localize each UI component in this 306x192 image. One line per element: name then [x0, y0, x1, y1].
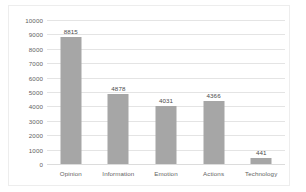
- bar-slot: 4366: [190, 20, 238, 164]
- gridline: [47, 164, 285, 165]
- bar-value-label: 8815: [64, 28, 78, 35]
- y-axis-tick-label: 4000: [29, 103, 43, 110]
- y-axis-tick-label: 5000: [29, 89, 43, 96]
- plot-area: 0100020003000400050006000700080009000100…: [47, 20, 285, 164]
- x-axis-category-label: Technology: [245, 170, 277, 177]
- y-axis-tick-label: 8000: [29, 45, 43, 52]
- bar-slot: 441: [237, 20, 285, 164]
- bar-value-label: 4878: [111, 85, 125, 92]
- bar-series: 8815487840314366441: [47, 20, 285, 164]
- chart-frame: 0100020003000400050006000700080009000100…: [8, 5, 290, 186]
- y-axis-tick-label: 9000: [29, 31, 43, 38]
- bar[interactable]: [203, 101, 224, 164]
- y-axis-tick-label: 6000: [29, 74, 43, 81]
- y-axis-tick-label: 7000: [29, 60, 43, 67]
- x-axis-category-label: Opinion: [60, 170, 82, 177]
- y-axis-tick-label: 10000: [25, 17, 43, 24]
- y-axis-tick-label: 0: [39, 161, 43, 168]
- y-axis-tick-label: 3000: [29, 117, 43, 124]
- x-axis-category-label: Actions: [203, 170, 224, 177]
- x-axis-category-label: Information: [102, 170, 134, 177]
- bar[interactable]: [251, 158, 272, 164]
- bar-value-label: 441: [256, 149, 267, 156]
- x-axis-category-label: Emotion: [154, 170, 177, 177]
- bar[interactable]: [155, 106, 176, 164]
- y-axis-tick-label: 2000: [29, 132, 43, 139]
- x-axis-category-labels: OpinionInformationEmotionActionsTechnolo…: [47, 167, 285, 185]
- bar-slot: 4031: [142, 20, 190, 164]
- bar[interactable]: [108, 94, 129, 164]
- bar-value-label: 4031: [159, 97, 173, 104]
- y-axis-tick-label: 1000: [29, 146, 43, 153]
- bar-slot: 8815: [47, 20, 95, 164]
- bar[interactable]: [60, 37, 81, 164]
- bar-slot: 4878: [95, 20, 143, 164]
- bar-value-label: 4366: [207, 92, 221, 99]
